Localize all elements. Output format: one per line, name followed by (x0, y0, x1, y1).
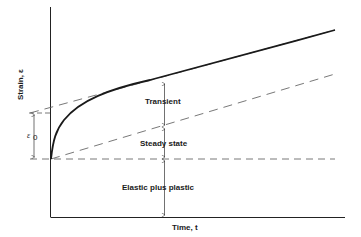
epsilon0-label: ε (27, 131, 31, 140)
transient-label: Transient (145, 97, 181, 106)
steady-state-label: Steady state (140, 139, 188, 148)
x-axis-label: Time, t (172, 223, 198, 232)
y-axis-label: Strain, ε (16, 69, 25, 100)
elastic-plastic-label: Elastic plus plastic (122, 183, 195, 192)
creep-curve (51, 30, 335, 159)
steady-state-dashed-line (51, 74, 335, 159)
epsilon0-subscript: 0 (33, 133, 38, 142)
creep-diagram: ε 0 Transient Steady state Elastic plus … (0, 0, 361, 237)
